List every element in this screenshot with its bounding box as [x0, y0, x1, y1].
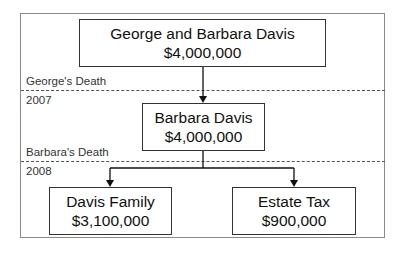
arrowhead-icon [199, 96, 207, 103]
arrowhead-icon [290, 180, 298, 187]
arrowhead-icon [106, 180, 114, 187]
connector-arrows [0, 0, 406, 256]
